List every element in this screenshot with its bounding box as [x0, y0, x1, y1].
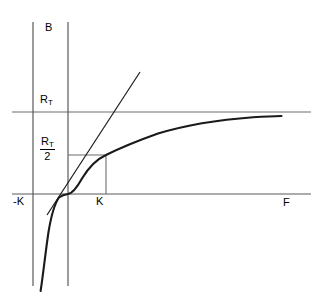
saturation-curve — [41, 116, 282, 291]
y-tick-label-rt: RT — [40, 94, 53, 105]
chart-figure: B F -K K RT RT 2 — [0, 0, 318, 300]
y-tick-label-rt-half-numerator-subscript: T — [49, 140, 54, 149]
y-tick-label-rt-half-numerator-main: R — [41, 135, 49, 147]
y-axis-title: B — [45, 22, 52, 33]
x-tick-label-k: K — [96, 196, 103, 207]
y-tick-label-rt-half: RT 2 — [40, 136, 55, 162]
y-tick-label-rt-half-denominator: 2 — [40, 150, 55, 163]
y-tick-label-rt-main: R — [40, 93, 48, 105]
y-tick-label-rt-subscript: T — [48, 98, 53, 107]
y-tick-label-rt-half-numerator: RT — [40, 136, 55, 150]
x-tick-label-minus-k: -K — [13, 196, 24, 207]
x-axis-title: F — [283, 197, 290, 208]
